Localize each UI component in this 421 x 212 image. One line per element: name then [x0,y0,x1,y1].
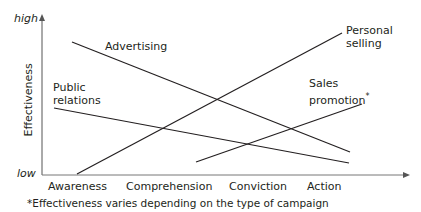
x-axis-arrow-icon [403,172,410,178]
personal-selling-line [77,33,342,174]
sales-promotion-label-text: promotion [309,94,366,107]
advertising-label: Advertising [105,40,167,53]
footnote-marker: * [366,92,370,101]
personal-selling-label-line2: selling [346,37,393,50]
x-category-action: Action [307,180,341,193]
y-axis-title: Effectiveness [22,67,35,137]
footnote: *Effectiveness varies depending on the t… [27,197,329,210]
public-relations-label-line1: Public [53,81,101,94]
public-relations-label-line2: relations [53,94,101,107]
y-axis-high-label: high [14,12,38,25]
sales-promotion-label-line2: promotion* [309,90,370,107]
y-axis-low-label: low [17,167,36,180]
x-category-comprehension: Comprehension [126,180,212,193]
public-relations-label: Public relations [53,81,101,107]
public-relations-line [54,108,349,163]
x-category-awareness: Awareness [48,180,107,193]
personal-selling-label-line1: Personal [346,24,393,37]
sales-promotion-label: Sales promotion* [309,77,370,107]
sales-promotion-line [196,104,362,162]
sales-promotion-label-line1: Sales [309,77,370,90]
personal-selling-label: Personal selling [346,24,393,50]
x-category-conviction: Conviction [229,180,287,193]
y-axis-arrow-icon [39,14,45,21]
